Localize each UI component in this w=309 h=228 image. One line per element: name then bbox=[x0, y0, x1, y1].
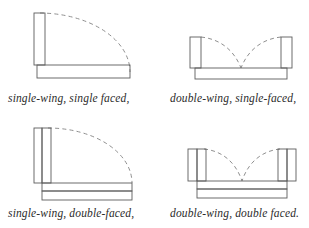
wing-left-inner bbox=[197, 149, 206, 181]
wing-left-outer bbox=[34, 128, 42, 183]
caption-double-wing-double-faced: double-wing, double faced. bbox=[170, 207, 299, 219]
double-wing-double-faced-drawing bbox=[178, 121, 306, 205]
base-facing-lower bbox=[42, 191, 132, 200]
wing-left-inner bbox=[42, 128, 51, 183]
dashed-arc-right bbox=[241, 37, 281, 68]
diagram-single-wing-single-faced bbox=[20, 6, 145, 90]
wing-right-inner bbox=[278, 149, 287, 181]
double-wing-single-faced-drawing bbox=[178, 6, 306, 90]
figure-container: single-wing, single faced, double-wing, … bbox=[0, 0, 309, 228]
base-facing-upper bbox=[197, 181, 287, 189]
dashed-arc bbox=[48, 128, 132, 183]
wing-left-outer bbox=[188, 149, 197, 181]
single-wing-double-faced-drawing bbox=[20, 121, 145, 205]
caption-double-wing-single-faced: double-wing, single-faced, bbox=[170, 92, 296, 104]
wing-right-outer bbox=[287, 149, 296, 181]
single-wing-single-faced-drawing bbox=[20, 6, 145, 90]
caption-single-wing-single-faced: single-wing, single faced, bbox=[8, 92, 129, 104]
diagram-double-wing-double-faced bbox=[178, 121, 306, 205]
caption-single-wing-double-faced: single-wing, double-faced, bbox=[8, 207, 134, 219]
dashed-arc-left bbox=[201, 37, 241, 68]
base-facing bbox=[37, 65, 130, 78]
dashed-arc-left bbox=[204, 149, 242, 181]
base-facing-upper bbox=[42, 183, 132, 191]
base-facing bbox=[195, 68, 287, 79]
wing-left bbox=[34, 13, 45, 65]
diagram-double-wing-single-faced bbox=[178, 6, 306, 90]
dashed-arc-right bbox=[242, 149, 280, 181]
dashed-arc bbox=[40, 13, 130, 72]
wing-left bbox=[190, 37, 201, 68]
base-facing-lower bbox=[197, 189, 287, 198]
wing-right bbox=[281, 37, 292, 68]
diagram-single-wing-double-faced bbox=[20, 121, 145, 205]
